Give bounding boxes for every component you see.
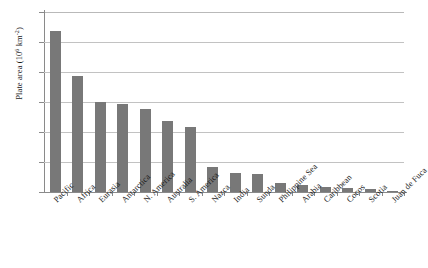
bar-series — [44, 12, 404, 192]
y-axis-title: Plate area (106 km-2) — [14, 0, 25, 138]
bar — [50, 31, 61, 192]
y-axis-title-exponent: 6 — [14, 49, 20, 52]
y-tick-mark — [39, 192, 44, 193]
y-axis-title-unit-exponent: -2 — [14, 30, 20, 35]
y-axis-title-text: Plate area (10 — [14, 52, 24, 100]
bar — [95, 102, 106, 192]
y-axis-title-unit: km — [14, 35, 24, 48]
y-axis-title-close: ) — [14, 27, 24, 30]
bar — [72, 76, 83, 192]
bar — [117, 104, 128, 192]
